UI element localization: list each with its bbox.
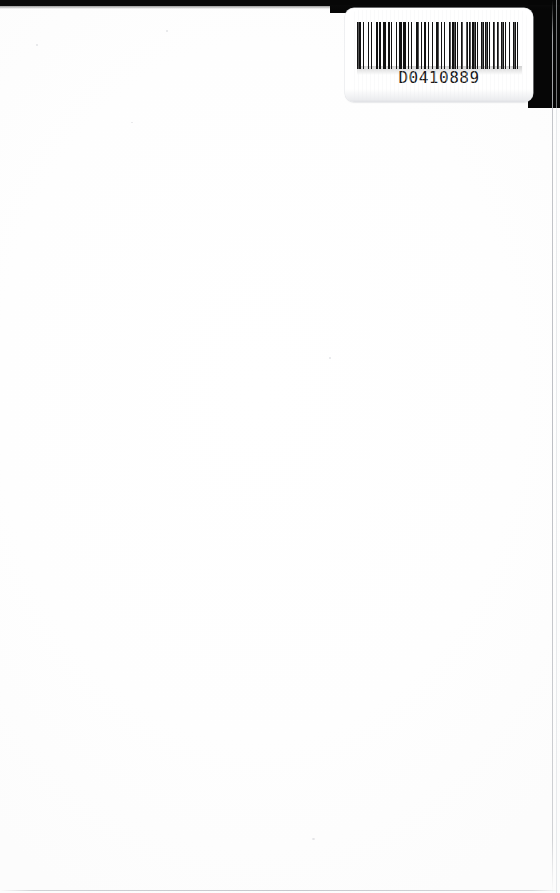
barcode-label: D0410889 [345, 8, 533, 102]
dust-speck [329, 357, 331, 359]
dust-speck [36, 44, 38, 46]
page-edge-seam-right [552, 0, 553, 893]
dust-speck [312, 838, 315, 840]
barcode-number-text: D0410889 [345, 68, 533, 88]
dust-speck [131, 122, 133, 123]
page-edge-seam-bottom [0, 890, 560, 891]
dust-speck [166, 30, 168, 32]
barcode-bars [357, 22, 522, 69]
scanned-page: D0410889 [0, 0, 560, 893]
paper-surface [0, 0, 560, 893]
label-bottom-shadow [345, 89, 533, 102]
page-edge-seam-right-outer [556, 0, 557, 893]
barcode-space [518, 22, 522, 69]
